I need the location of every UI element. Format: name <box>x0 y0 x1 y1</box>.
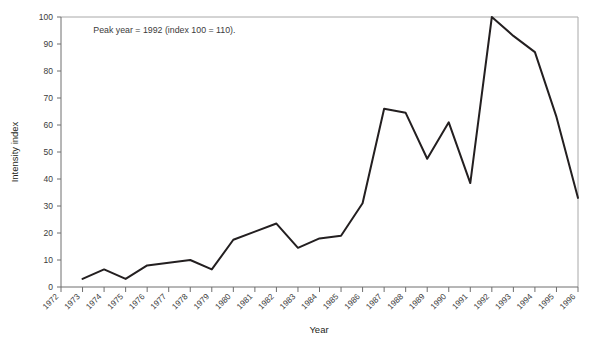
chart-canvas: 0102030405060708090100 19721973197419751… <box>0 0 599 343</box>
y-tick-label: 10 <box>44 255 54 265</box>
x-tick-label: 1983 <box>278 292 298 312</box>
x-tick-label: 1984 <box>300 292 320 312</box>
x-tick-label: 1975 <box>106 292 126 312</box>
y-tick-label: 70 <box>44 93 54 103</box>
y-tick-label: 30 <box>44 201 54 211</box>
x-tick-label: 1974 <box>84 292 104 312</box>
x-tick-label: 1996 <box>558 292 578 312</box>
x-tick-label: 1986 <box>343 292 363 312</box>
x-axis-title: Year <box>309 324 328 335</box>
y-tick-label: 90 <box>44 39 54 49</box>
y-tick-label: 0 <box>48 282 53 292</box>
y-tick-label: 60 <box>44 120 54 130</box>
x-tick-label: 1985 <box>321 292 341 312</box>
x-tick-label: 1972 <box>41 292 61 312</box>
x-tick-label: 1979 <box>192 292 212 312</box>
x-tick-label: 1987 <box>364 292 384 312</box>
y-tick-label: 20 <box>44 228 54 238</box>
x-tick-label: 1993 <box>494 292 514 312</box>
x-tick-label: 1982 <box>257 292 277 312</box>
x-tick-label: 1992 <box>472 292 492 312</box>
x-tick-label: 1978 <box>170 292 190 312</box>
y-tick-label: 40 <box>44 174 54 184</box>
x-tick-label: 1991 <box>450 292 470 312</box>
x-tick-label: 1994 <box>515 292 535 312</box>
x-axis-ticks: 1972197319741975197619771978197919801981… <box>41 287 578 311</box>
x-tick-label: 1973 <box>63 292 83 312</box>
peak-year-annotation: Peak year = 1992 (index 100 = 110). <box>93 25 235 35</box>
y-tick-label: 100 <box>39 12 53 22</box>
line-chart-figure: 0102030405060708090100 19721973197419751… <box>0 0 599 343</box>
x-tick-label: 1988 <box>386 292 406 312</box>
x-tick-label: 1977 <box>149 292 169 312</box>
plot-frame <box>61 17 578 287</box>
x-tick-label: 1990 <box>429 292 449 312</box>
x-tick-label: 1995 <box>537 292 557 312</box>
y-tick-label: 80 <box>44 66 54 76</box>
y-tick-label: 50 <box>44 147 54 157</box>
x-tick-label: 1976 <box>127 292 147 312</box>
y-axis-title: Intensity index <box>9 121 20 182</box>
y-axis-ticks: 0102030405060708090100 <box>39 12 61 292</box>
data-series-line <box>83 17 578 279</box>
x-tick-label: 1989 <box>407 292 427 312</box>
x-tick-label: 1980 <box>214 292 234 312</box>
x-tick-label: 1981 <box>235 292 255 312</box>
